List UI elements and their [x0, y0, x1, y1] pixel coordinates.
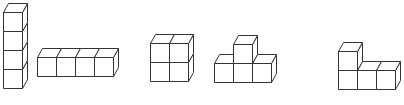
cube	[151, 63, 170, 82]
shape-l-shape	[339, 43, 401, 90]
cube	[95, 49, 119, 77]
shape-vertical-column-4	[4, 4, 28, 89]
cube	[4, 4, 28, 32]
cube	[253, 55, 277, 83]
cube	[339, 43, 363, 71]
shape-square-2x2	[151, 35, 194, 82]
cube-figures-diagram	[0, 0, 404, 105]
shape-t-shape	[215, 36, 277, 83]
cube	[377, 62, 401, 90]
shape-horizontal-row-4	[38, 49, 119, 77]
cube	[339, 71, 358, 90]
cube	[234, 64, 253, 83]
cube	[234, 36, 258, 64]
cube-figures-svg	[0, 0, 404, 105]
cube	[170, 35, 194, 63]
